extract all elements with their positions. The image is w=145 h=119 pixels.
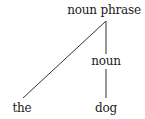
node-noun: noun <box>91 54 121 68</box>
node-the: the <box>12 101 31 115</box>
syntax-tree-diagram: noun phrase noun the dog <box>0 0 145 119</box>
node-noun-phrase: noun phrase <box>67 3 141 17</box>
node-dog: dog <box>95 101 117 115</box>
